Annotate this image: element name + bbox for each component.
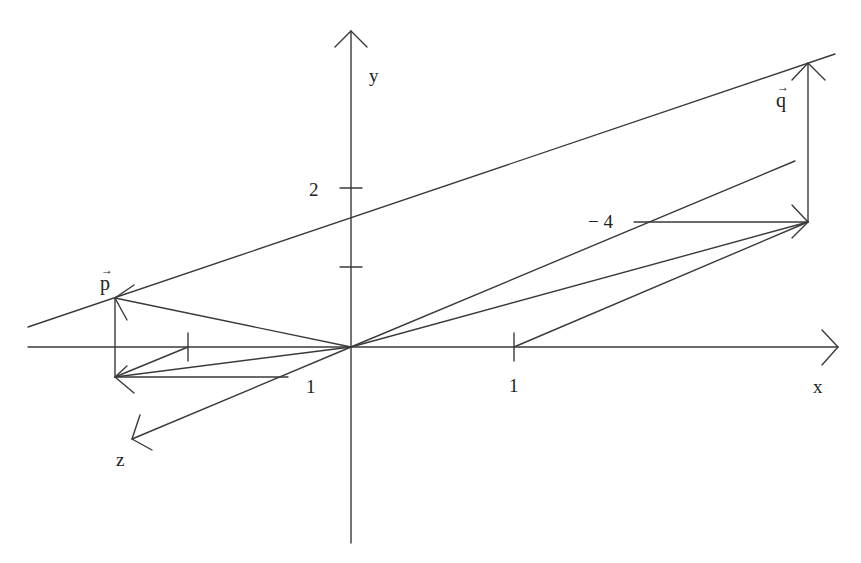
z-axis — [132, 347, 351, 450]
p-construction — [115, 347, 351, 393]
vector-p-arrowhead-icon — [115, 285, 134, 320]
z-tick-label: 1 — [306, 377, 316, 396]
vector-q-label: → q — [776, 90, 786, 110]
y-axis — [335, 31, 367, 543]
y-axis-label: y — [369, 66, 379, 85]
z-axis-label: z — [116, 450, 124, 469]
line-through-p-q — [28, 54, 835, 327]
vector-arrow-icon: → — [101, 264, 113, 276]
vector-q — [792, 63, 825, 222]
x-axis — [28, 330, 838, 365]
vector-p-label: → p — [100, 273, 110, 293]
vector-diagram: y 2 1 x 1 z − 4 → p → q — [0, 0, 861, 563]
y-tick-label: 2 — [309, 180, 319, 199]
vector-arrow-icon: → — [777, 81, 789, 93]
x-tick-label: 1 — [509, 376, 519, 395]
x-axis-label: x — [813, 377, 823, 396]
neg-four-label: − 4 — [588, 212, 613, 231]
diagram-canvas — [0, 0, 861, 563]
q-construction — [351, 161, 808, 347]
